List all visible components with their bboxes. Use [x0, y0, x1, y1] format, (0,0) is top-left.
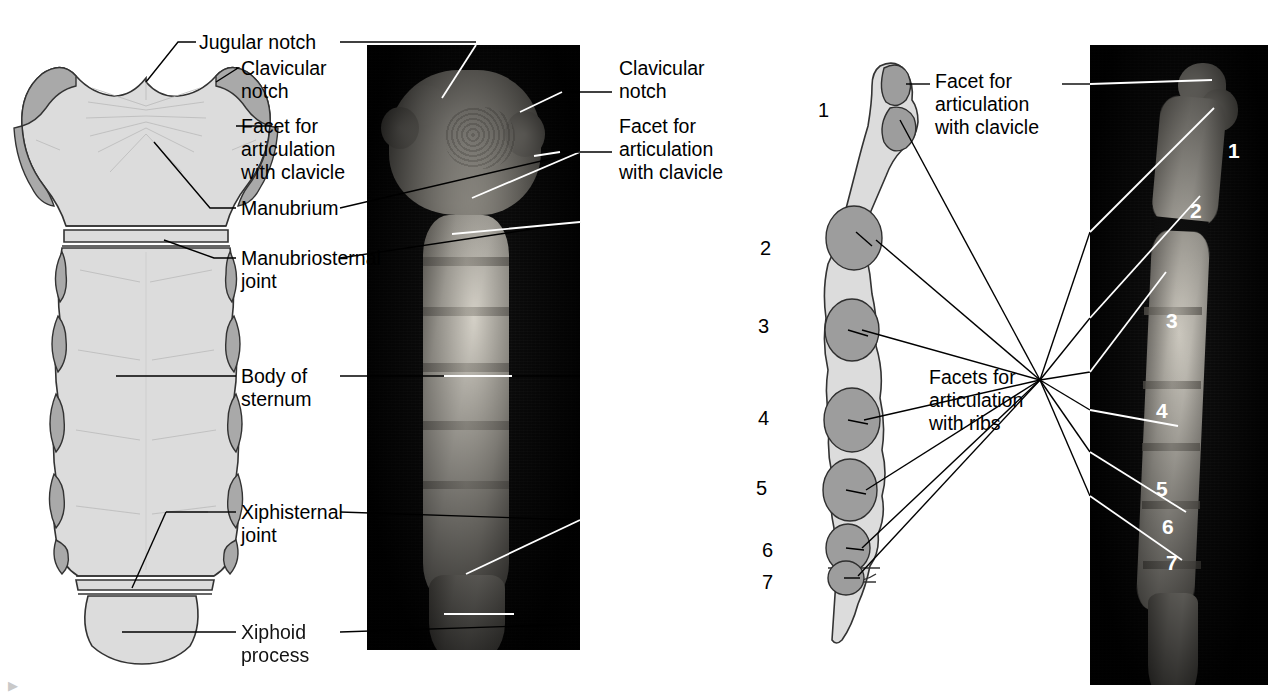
- facet-clavicle-left: [14, 126, 54, 206]
- lateral-facet-4: [824, 388, 880, 452]
- figure-vector-overlay: [0, 0, 1280, 696]
- lateral-facet-2: [826, 206, 882, 270]
- rib-number-photo-3: 3: [1166, 310, 1178, 331]
- rib-number-drawing-1: 1: [818, 100, 829, 120]
- lateral-facet-clavicle-upper: [881, 65, 910, 105]
- lateral-facet-clavicle-lower: [882, 107, 916, 151]
- rib-number-photo-1: 1: [1228, 140, 1240, 161]
- lateral-facet-7: [828, 561, 864, 595]
- rib-number-drawing-3: 3: [758, 316, 769, 336]
- rib-number-drawing-6: 6: [762, 540, 773, 560]
- leader-manubrium-drawing: [154, 142, 236, 208]
- rib-number-photo-6: 6: [1162, 516, 1174, 537]
- xiphisternal-joint-band: [76, 580, 214, 590]
- lateral-facet-6: [826, 524, 870, 572]
- lateral-facet-5: [823, 459, 877, 521]
- manubrium-outline: [22, 67, 270, 226]
- photo-vignette: [367, 45, 580, 650]
- label-manubriosternal-joint: Manubriosternal joint: [241, 247, 381, 293]
- leader-manubriosternal-drawing: [164, 240, 236, 258]
- label-body-of-sternum: Body of sternum: [241, 365, 311, 411]
- xiphisternal-wedge-diagonal: [132, 512, 166, 588]
- label-xiphisternal-joint: Xiphisternal joint: [241, 501, 343, 547]
- leader-jugular-notch-drawing: [146, 42, 196, 82]
- rib-number-photo-5: 5: [1156, 478, 1168, 499]
- leader-fan-ribs-photo-outer: [1040, 232, 1090, 496]
- rib-number-drawing-4: 4: [758, 408, 769, 428]
- lateral-facet-stubs: [844, 232, 872, 578]
- lateral-manubrium-outline: [840, 63, 918, 232]
- body-texture: [76, 252, 216, 570]
- label-facet-for-articulation-with-clavicle: Facet for articulation with clavicle: [241, 115, 345, 184]
- clavicular-notch-left-shade: [22, 67, 76, 126]
- anterior-photo-panel: [367, 45, 580, 650]
- xiphoid-process-outline: [85, 596, 198, 664]
- manubrium-texture: [36, 82, 256, 172]
- rib-number-photo-7: 7: [1166, 552, 1178, 573]
- lateral-xiphisternal-curve: [830, 574, 876, 581]
- label-manubrium: Manubrium: [241, 197, 339, 220]
- label-facets-for-articulation-with-ribs: Facets for articulation with ribs: [929, 366, 1023, 435]
- anatomy-figure: Jugular notch Clavicular notch Facet for…: [0, 0, 1280, 696]
- lateral-photo-vignette: [1090, 45, 1268, 685]
- figure-caption-artifact: ▶: [8, 678, 18, 693]
- lateral-photo-panel: [1090, 45, 1268, 685]
- rib-number-photo-4: 4: [1156, 400, 1168, 421]
- lateral-body-outline: [824, 238, 885, 643]
- rib-number-drawing-5: 5: [756, 478, 767, 498]
- costal-notches-right: [224, 252, 243, 574]
- label-facet-for-articulation-with-clavicle-photo: Facet for articulation with clavicle: [619, 115, 723, 184]
- label-clavicular-notch-photo: Clavicular notch: [619, 57, 705, 103]
- label-clavicular-notch: Clavicular notch: [241, 57, 327, 103]
- rib-number-photo-2: 2: [1190, 200, 1202, 221]
- costal-notches-left: [49, 252, 68, 574]
- rib-number-drawing-7: 7: [762, 572, 773, 592]
- lateral-facet-3: [825, 299, 879, 361]
- body-of-sternum-outline: [53, 248, 238, 576]
- leader-fan-ribs-drawing: [858, 120, 1040, 576]
- label-facet-for-articulation-with-clavicle-lateral: Facet for articulation with clavicle: [935, 70, 1039, 139]
- label-xiphoid-process: Xiphoid process: [241, 621, 309, 667]
- leader-clavicular-notch-drawing: [216, 68, 238, 82]
- rib-number-drawing-2: 2: [760, 238, 771, 258]
- manubriosternal-joint-band: [64, 230, 228, 242]
- label-jugular-notch: Jugular notch: [199, 31, 316, 54]
